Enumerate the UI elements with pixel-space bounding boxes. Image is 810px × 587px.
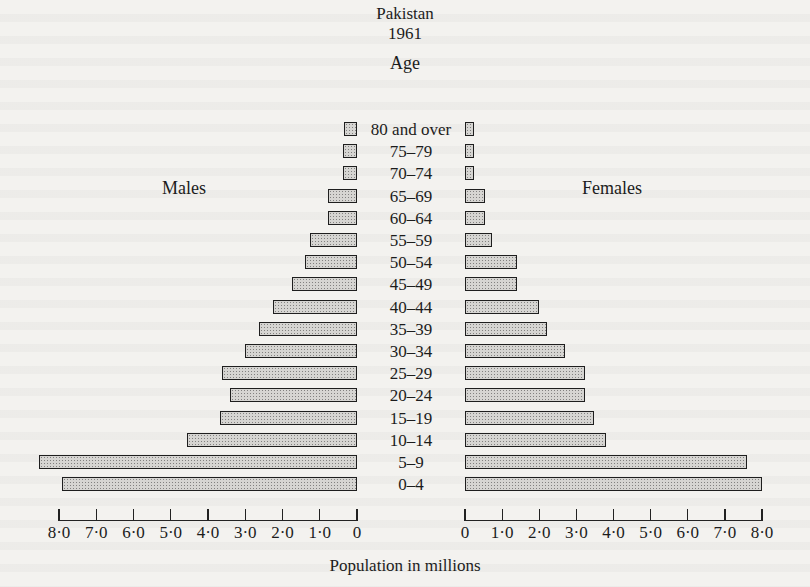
tick-mark (650, 509, 651, 521)
female-bar (465, 122, 474, 136)
age-group-label: 10–14 (361, 430, 461, 452)
age-row: 45–49 (0, 274, 810, 296)
female-bar (465, 477, 762, 491)
tick-mark (464, 509, 465, 521)
age-row: 30–34 (0, 341, 810, 363)
male-bar (292, 277, 357, 291)
age-group-label: 50–54 (361, 252, 461, 274)
age-group-label: 25–29 (361, 363, 461, 385)
x-axis-label: Population in millions (0, 556, 810, 576)
male-tick-label: 4·0 (188, 523, 228, 543)
male-tick-label: 3·0 (225, 523, 265, 543)
female-bar (465, 277, 517, 291)
age-row: 40–44 (0, 297, 810, 319)
tick-mark (319, 509, 320, 521)
age-group-label: 45–49 (361, 274, 461, 296)
female-tick-label: 8·0 (742, 523, 782, 543)
tick-mark (282, 509, 283, 521)
age-row: 15–19 (0, 408, 810, 430)
tick-mark (133, 509, 134, 521)
age-group-label: 70–74 (361, 163, 461, 185)
age-group-label: 5–9 (361, 452, 461, 474)
female-bar (465, 255, 517, 269)
age-group-label: 65–69 (361, 186, 461, 208)
age-group-label: 75–79 (361, 141, 461, 163)
age-group-label: 55–59 (361, 230, 461, 252)
age-row: 10–14 (0, 430, 810, 452)
tick-mark (687, 509, 688, 521)
female-bar (465, 455, 747, 469)
female-tick-label: 7·0 (705, 523, 745, 543)
male-bar (305, 255, 357, 269)
tick-mark (356, 509, 357, 521)
male-bar (343, 166, 357, 180)
tick-mark (245, 509, 246, 521)
male-bar (343, 144, 357, 158)
population-pyramid: 80 and over75–7970–7465–6960–6455–5950–5… (0, 0, 810, 587)
female-x-axis (465, 507, 762, 521)
tick-mark (502, 509, 503, 521)
age-row: 5–9 (0, 452, 810, 474)
age-row: 35–39 (0, 319, 810, 341)
female-tick-label: 3·0 (556, 523, 596, 543)
female-tick-label: 5·0 (631, 523, 671, 543)
female-bar (465, 433, 606, 447)
male-tick-label: 2·0 (263, 523, 303, 543)
male-tick-label: 0 (337, 523, 377, 543)
age-row: 80 and over (0, 119, 810, 141)
male-bar (187, 433, 357, 447)
male-tick-label: 7·0 (76, 523, 116, 543)
age-row: 50–54 (0, 252, 810, 274)
female-bar (465, 322, 547, 336)
tick-mark (170, 509, 171, 521)
male-tick-label: 5·0 (151, 523, 191, 543)
female-bar (465, 366, 585, 380)
tick-mark (539, 509, 540, 521)
tick-mark (576, 509, 577, 521)
age-group-label: 60–64 (361, 208, 461, 230)
male-bar (230, 388, 357, 402)
female-bar (465, 388, 585, 402)
male-tick-label: 6·0 (114, 523, 154, 543)
female-bar (465, 233, 492, 247)
age-row: 70–74 (0, 163, 810, 185)
male-tick-label: 8·0 (39, 523, 79, 543)
male-bar (273, 300, 357, 314)
male-bar (245, 344, 357, 358)
male-bar (328, 211, 357, 225)
age-group-label: 20–24 (361, 385, 461, 407)
female-bar (465, 300, 539, 314)
male-bar (220, 411, 357, 425)
age-row: 55–59 (0, 230, 810, 252)
tick-mark (58, 509, 59, 521)
male-bar (39, 455, 357, 469)
female-tick-label: 0 (445, 523, 485, 543)
female-tick-label: 2·0 (519, 523, 559, 543)
female-bar (465, 166, 474, 180)
female-bar (465, 144, 474, 158)
male-bar (344, 122, 357, 136)
female-bar (465, 189, 485, 203)
female-bar (465, 344, 565, 358)
age-group-label: 0–4 (361, 474, 461, 496)
male-bar (310, 233, 357, 247)
male-bar (259, 322, 357, 336)
age-group-label: 40–44 (361, 297, 461, 319)
male-bar (62, 477, 357, 491)
female-tick-label: 6·0 (668, 523, 708, 543)
age-group-label: 30–34 (361, 341, 461, 363)
age-group-label: 15–19 (361, 408, 461, 430)
male-bar (328, 189, 357, 203)
age-row: 25–29 (0, 363, 810, 385)
tick-mark (613, 509, 614, 521)
male-x-axis (59, 507, 357, 521)
tick-mark (96, 509, 97, 521)
tick-mark (724, 509, 725, 521)
female-bar (465, 211, 485, 225)
female-bar (465, 411, 594, 425)
age-row: 75–79 (0, 141, 810, 163)
age-row: 20–24 (0, 385, 810, 407)
age-group-label: 80 and over (361, 119, 461, 141)
age-row: 65–69 (0, 186, 810, 208)
tick-mark (207, 509, 208, 521)
